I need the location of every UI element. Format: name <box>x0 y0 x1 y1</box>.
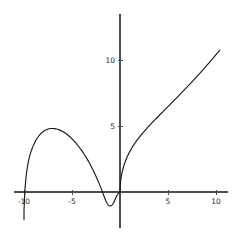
x-tick-label: 5 <box>166 197 171 206</box>
plot-canvas: -10-5510 510 <box>0 0 237 238</box>
plot-figure: -10-5510 510 <box>0 0 237 238</box>
y-tick-label: 10 <box>105 56 115 65</box>
y-tick-label: 5 <box>110 122 115 131</box>
axes-group <box>14 14 228 228</box>
curve-right-branch <box>120 50 220 192</box>
curve-group <box>24 50 220 220</box>
x-tick-label: 10 <box>211 197 221 206</box>
curve-left-branch <box>24 129 120 220</box>
x-tick-label: -5 <box>68 197 76 206</box>
